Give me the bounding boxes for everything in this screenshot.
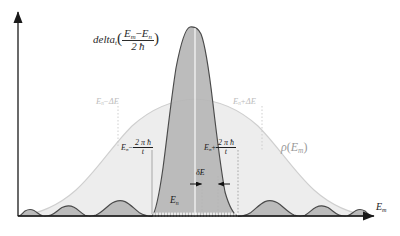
fraction: 2 π ħ t xyxy=(216,139,236,157)
label-en-baseline: En xyxy=(170,196,179,207)
en-sub: n xyxy=(176,200,179,206)
fraction-denominator: t xyxy=(216,148,236,156)
label-rho-density-of-states: ρ(Em) xyxy=(281,141,307,155)
plot-canvas xyxy=(0,0,400,236)
numerator-em: E xyxy=(124,27,131,39)
rho-argument: E xyxy=(291,140,298,154)
delta-function-formula: deltat( Em−En 2 ħ ) xyxy=(93,28,159,53)
label-en-plus-delta-e: En+ΔE xyxy=(233,97,256,107)
paren-close: ) xyxy=(154,30,159,46)
physics-figure: deltat( Em−En 2 ħ ) En−ΔE En+ΔE En− 2 π … xyxy=(0,0,400,236)
fraction: 2 π ħ t xyxy=(133,139,153,157)
denominator-coefficient: 2 xyxy=(131,40,137,52)
delta-symbol: delta xyxy=(93,33,115,45)
numerator-en-sub: n xyxy=(149,33,152,40)
x-axis-label: Em xyxy=(376,202,387,213)
delta-e-term: ΔE xyxy=(109,96,119,106)
label-small-delta-e: δE xyxy=(196,169,205,177)
hbar-symbol: ħ xyxy=(139,40,145,52)
delta-fraction-denominator: 2 ħ xyxy=(122,41,154,53)
small-delta-argument: E xyxy=(200,168,205,177)
fraction-denominator: t xyxy=(133,148,153,156)
label-en-minus-2pihbar-over-t: En− 2 π ħ t xyxy=(121,139,153,157)
delta-e-term: ΔE xyxy=(246,96,256,106)
label-en-plus-2pihbar-over-t: En+ 2 π ħ t xyxy=(204,139,236,157)
em-sub: m xyxy=(382,206,386,213)
paren-close: ) xyxy=(303,140,307,154)
delta-fraction: Em−En 2 ħ xyxy=(122,28,154,53)
label-en-minus-delta-e: En−ΔE xyxy=(96,97,119,107)
numerator-en: E xyxy=(142,27,149,39)
